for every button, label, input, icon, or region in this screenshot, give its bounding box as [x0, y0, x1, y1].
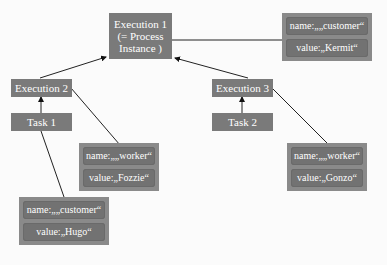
task-1-node: Task 1 — [11, 113, 72, 131]
variable-value: value:„Gonzo“ — [291, 169, 363, 187]
execution-1-label-line2: (= Process — [117, 30, 163, 42]
execution-2-node: Execution 2 — [11, 79, 72, 97]
task-2-node: Task 2 — [212, 113, 273, 131]
execution-1-variable: name:„„customer“ value:„Kermit“ — [282, 13, 372, 61]
variable-name: name:„„customer“ — [286, 17, 368, 35]
execution-2-label: Execution 2 — [15, 82, 68, 94]
variable-value: value:„Fozzie“ — [83, 169, 155, 187]
execution-3-variable: name:„„worker“ value:„Gonzo“ — [287, 143, 367, 191]
task-1-label: Task 1 — [27, 116, 56, 128]
execution-3-label: Execution 3 — [216, 82, 269, 94]
execution-2-variable: name:„„worker“ value:„Fozzie“ — [79, 143, 159, 191]
execution-1-label-line3: Instance ) — [119, 42, 162, 54]
execution-1-node: Execution 1 (= Process Instance ) — [109, 13, 172, 59]
variable-name: name:„„worker“ — [83, 147, 155, 165]
variable-value: value:„Hugo“ — [23, 223, 105, 241]
variable-value: value:„Kermit“ — [286, 39, 368, 57]
execution-1-label-line1: Execution 1 — [114, 18, 167, 30]
variable-name: name:„„worker“ — [291, 147, 363, 165]
execution-tree-diagram: Execution 1 (= Process Instance ) Execut… — [0, 0, 387, 265]
task-2-label: Task 2 — [228, 116, 257, 128]
variable-name: name:„„customer“ — [23, 201, 105, 219]
task-1-variable: name:„„customer“ value:„Hugo“ — [19, 197, 109, 245]
execution-3-node: Execution 3 — [212, 79, 273, 97]
